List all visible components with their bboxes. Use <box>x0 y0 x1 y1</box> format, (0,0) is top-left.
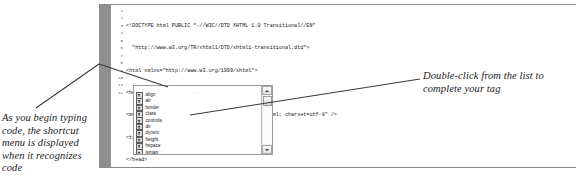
editor-gutter-strip <box>99 5 111 167</box>
scroll-up-arrow-icon[interactable] <box>262 86 272 95</box>
list-item[interactable]: ismap <box>134 150 261 154</box>
line-number: 7 <box>111 53 123 60</box>
line-number: 5 <box>111 38 123 45</box>
chevron-up-icon <box>265 90 269 92</box>
line-number: 10 <box>111 75 123 82</box>
line-number: 2 <box>111 15 123 22</box>
callout-left-text: As you begin typing code, the shortcut m… <box>2 112 98 175</box>
attribute-icon <box>136 149 143 154</box>
chevron-down-icon <box>265 149 269 151</box>
line-number: 12 <box>111 90 123 97</box>
scrollbar-thumb[interactable] <box>263 96 272 106</box>
autocomplete-list[interactable]: align alt border class controls dir <box>134 86 261 154</box>
line-number-column: 1 2 3 4 5 6 7 8 9 10 11 12 <box>111 8 123 97</box>
callout-right-text: Double-click from the list to complete y… <box>423 70 573 95</box>
autocomplete-popup[interactable]: ... align alt border class controls <box>133 85 273 155</box>
scroll-down-arrow-icon[interactable] <box>262 145 272 154</box>
line-number: 3 <box>111 23 123 30</box>
line-number: 8 <box>111 60 123 67</box>
line-number: 4 <box>111 30 123 37</box>
code-line: <!DOCTYPE html PUBLIC "-//W3C//DTD XHTML… <box>126 23 576 30</box>
line-number: 1 <box>111 8 123 15</box>
popup-scrollbar[interactable] <box>261 86 272 154</box>
scrollbar-track[interactable] <box>263 107 272 144</box>
line-number: 11 <box>111 82 123 89</box>
line-number: 9 <box>111 68 123 75</box>
leader-line-left <box>36 64 99 108</box>
code-line: "http://www.w3.org/TR/xhtml1/DTD/xhtml1-… <box>126 45 576 52</box>
code-line: </head> <box>126 157 576 164</box>
line-number: 6 <box>111 45 123 52</box>
list-item-label: ismap <box>146 150 159 154</box>
